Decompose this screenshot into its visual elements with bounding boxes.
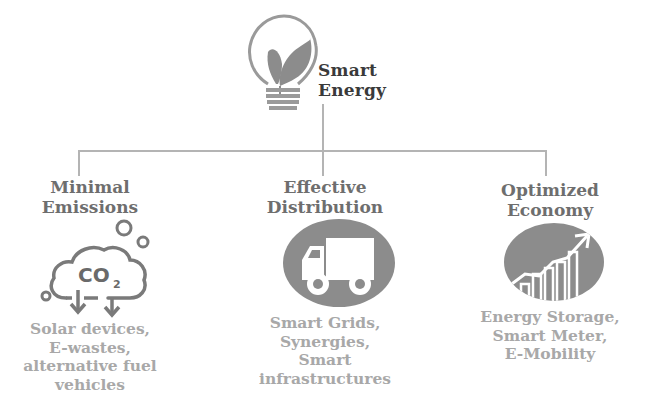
heading-line: Effective xyxy=(250,177,400,197)
co2-subscript: 2 xyxy=(113,278,121,291)
connector-left-vertical xyxy=(78,150,80,176)
desc-line: E-wastes, xyxy=(10,339,170,358)
root-title: Smart Energy xyxy=(318,60,386,100)
co2-text: CO xyxy=(78,263,110,287)
branch-heading-economy: Optimized Economy xyxy=(480,180,620,220)
growth-chart-icon xyxy=(503,222,605,302)
desc-line: Smart xyxy=(240,351,410,370)
heading-line: Economy xyxy=(480,200,620,220)
lightbulb-leaf-icon xyxy=(246,12,318,112)
heading-line: Emissions xyxy=(10,197,170,217)
truck-icon xyxy=(282,218,397,308)
desc-line: vehicles xyxy=(10,376,170,395)
branch-desc-economy: Energy Storage, Smart Meter, E-Mobility xyxy=(465,308,635,364)
connector-root-vertical xyxy=(322,104,324,176)
root-title-line1: Smart xyxy=(318,60,386,80)
desc-line: alternative fuel xyxy=(10,357,170,376)
root-title-line2: Energy xyxy=(318,80,386,100)
desc-line: Smart Meter, xyxy=(465,327,635,346)
co2-cloud-icon: CO 2 xyxy=(36,218,166,318)
heading-line: Optimized xyxy=(480,180,620,200)
desc-line: infrastructures xyxy=(240,370,410,389)
connector-right-vertical xyxy=(545,150,547,176)
desc-line: Smart Grids, xyxy=(240,314,410,333)
heading-line: Minimal xyxy=(10,177,170,197)
desc-line: Solar devices, xyxy=(10,320,170,339)
desc-line: Synergies, xyxy=(240,333,410,352)
branch-desc-emissions: Solar devices, E-wastes, alternative fue… xyxy=(10,320,170,394)
connector-horizontal xyxy=(78,150,547,152)
desc-line: Energy Storage, xyxy=(465,308,635,327)
desc-line: E-Mobility xyxy=(465,345,635,364)
branch-heading-distribution: Effective Distribution xyxy=(250,177,400,217)
branch-heading-emissions: Minimal Emissions xyxy=(10,177,170,217)
branch-desc-distribution: Smart Grids, Synergies, Smart infrastruc… xyxy=(240,314,410,388)
heading-line: Distribution xyxy=(250,197,400,217)
